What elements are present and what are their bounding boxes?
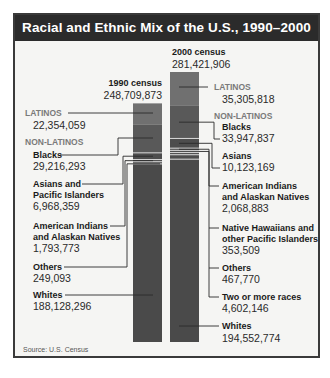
label-1990-whites: Whites: [33, 290, 63, 300]
label-2000-blacks: Blacks: [222, 122, 251, 132]
leader-2000-two-or-more: [209, 268, 219, 297]
label-2000-blacks-value: 33,947,837: [222, 132, 275, 144]
bar-segment-1990-blacks: [133, 125, 162, 153]
label-2000-nh-value: 353,509: [222, 244, 260, 256]
leader-2000-others: [209, 228, 219, 268]
label-2000-others-value: 467,770: [222, 273, 260, 285]
label-2000-amind-value: 2,068,883: [222, 202, 269, 214]
label-2000-whites-value: 194,552,774: [222, 332, 281, 344]
label-2000-asians: Asians: [222, 151, 252, 161]
label-1990-amind-line2: and Alaskan Natives: [33, 232, 120, 242]
label-1990-amind-value: 1,793,773: [33, 242, 80, 254]
bar-segment-2000-latinos: [170, 72, 199, 106]
source-note: Source: U.S. Census: [23, 346, 89, 353]
bar-segment-1990-latinos: [133, 103, 162, 124]
label-2000-others: Others: [222, 263, 251, 273]
label-2000-latinos-value: 35,305,818: [222, 93, 275, 105]
label-1990-asians-line1: Asians and: [33, 179, 81, 189]
bar-segment-2000-whites: [170, 159, 199, 342]
label-2000-nh-line1: Native Hawaiians and: [222, 223, 314, 233]
label-1990-whites-value: 188,128,296: [33, 300, 92, 312]
leader-2000-nh: [199, 151, 219, 228]
label-1990-amind-line1: American Indians: [33, 221, 108, 231]
label-2000-asians-value: 10,123,169: [222, 161, 275, 173]
label-2000-amind-line2: and Alaskan Natives: [222, 192, 309, 202]
bar-2000-title: 2000 census: [172, 47, 226, 57]
label-2000-amind-line1: American Indians: [222, 181, 297, 191]
label-1990-others-value: 249,093: [33, 272, 71, 284]
bar-segment-2000-two-or-more-races: [170, 155, 199, 159]
label-1990-others: Others: [33, 262, 62, 272]
bar-2000-total: 281,421,906: [172, 58, 231, 70]
label-1990-latinos-category: LATINOS: [25, 108, 62, 118]
bar-1990-total: 248,709,873: [104, 89, 163, 101]
label-1990-asians-value: 6,968,359: [33, 200, 80, 212]
label-2000-two-or-more-value: 4,602,146: [222, 302, 269, 314]
chart-canvas: 1990 census 248,709,873 2000 census 281,…: [0, 0, 330, 378]
label-1990-asians-line2: Pacific Islanders: [33, 190, 104, 200]
label-2000-nh-line2: other Pacific Islanders: [222, 234, 318, 244]
label-1990-blacks: Blacks: [33, 150, 62, 160]
label-1990-latinos-value: 22,354,059: [33, 119, 86, 131]
bar-segment-1990-whites: [133, 164, 162, 342]
bars-layer: [133, 72, 199, 342]
label-2000-latinos-category: LATINOS: [214, 82, 251, 92]
label-2000-whites: Whites: [222, 321, 252, 331]
label-1990-nonlatinos-category: NON-LATINOS: [25, 137, 84, 147]
bar-1990-title: 1990 census: [108, 78, 162, 88]
label-2000-two-or-more: Two or more races: [222, 292, 301, 302]
label-1990-blacks-value: 29,216,293: [33, 160, 86, 172]
label-2000-nonlatinos-category: NON-LATINOS: [214, 111, 273, 121]
